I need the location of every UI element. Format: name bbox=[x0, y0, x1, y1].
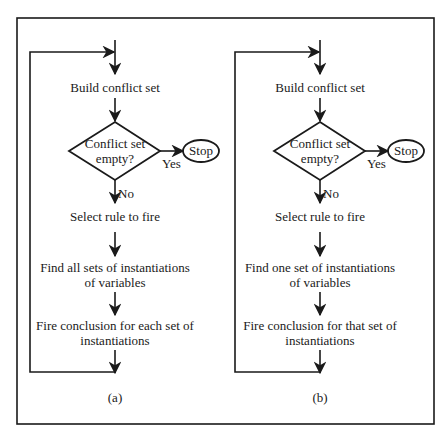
step-find-line1: Find one set of instantiations bbox=[245, 260, 395, 275]
step-build-conflict-set: Build conflict set bbox=[275, 80, 365, 95]
step-find-line1: Find all sets of instantiations bbox=[40, 260, 190, 275]
step-find-line2: of variables bbox=[289, 275, 350, 290]
step-select-rule: Select rule to fire bbox=[275, 209, 365, 224]
panel-label-b: (b) bbox=[312, 390, 327, 405]
decision-text-line1: Conflict set bbox=[290, 136, 351, 151]
decision-text-line2: empty? bbox=[96, 151, 134, 166]
no-label: No bbox=[118, 186, 134, 201]
yes-label: Yes bbox=[162, 156, 181, 171]
stop-label: Stop bbox=[189, 143, 213, 158]
step-build-conflict-set: Build conflict set bbox=[70, 80, 160, 95]
step-fire-line2: instantiations bbox=[80, 333, 149, 348]
decision-text-line1: Conflict set bbox=[85, 136, 146, 151]
step-find-line2: of variables bbox=[84, 275, 145, 290]
panel-b: Build conflict set Conflict set empty? Y… bbox=[235, 40, 424, 405]
panel-a: Build conflict set Conflict set empty? Y… bbox=[30, 40, 219, 405]
panel-label-a: (a) bbox=[108, 390, 122, 405]
step-fire-line2: instantiations bbox=[285, 333, 354, 348]
no-label: No bbox=[323, 186, 339, 201]
step-select-rule: Select rule to fire bbox=[70, 209, 160, 224]
step-fire-line1: Fire conclusion for each set of bbox=[36, 318, 194, 333]
yes-label: Yes bbox=[367, 156, 386, 171]
flowchart-figure: Build conflict set Conflict set empty? Y… bbox=[0, 0, 447, 441]
stop-label: Stop bbox=[394, 143, 418, 158]
step-fire-line1: Fire conclusion for that set of bbox=[243, 318, 397, 333]
decision-text-line2: empty? bbox=[301, 151, 339, 166]
